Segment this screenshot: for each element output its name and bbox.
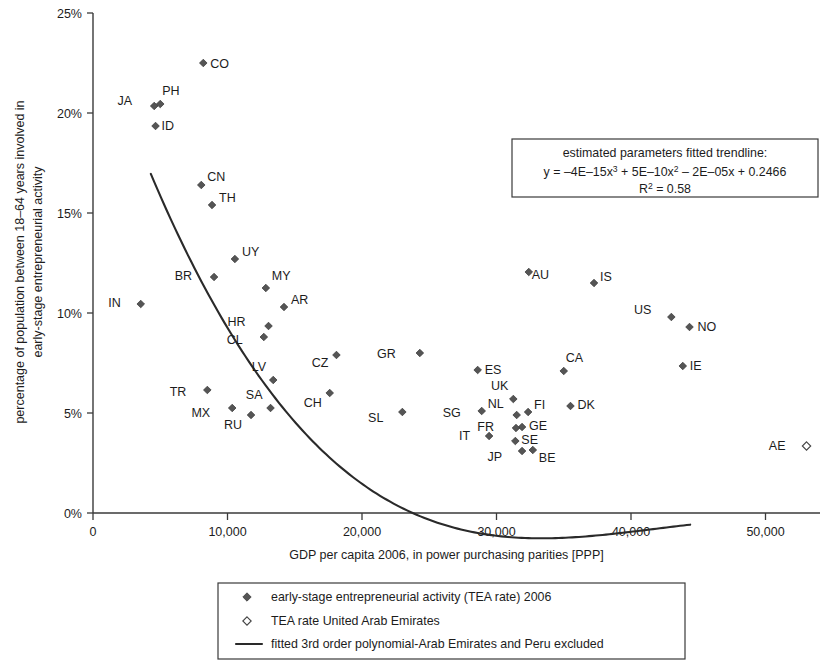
point-label-se: SE [521,433,538,447]
data-point-co [199,59,207,67]
x-tick-label: 10,000 [208,525,246,539]
data-point-gr [416,349,424,357]
x-tick-label: 50,000 [746,525,784,539]
point-label-co: CO [210,57,229,71]
legend-marker-open-diamond [243,617,251,625]
legend-marker-filled-diamond [243,593,251,601]
point-label-uk: UK [491,379,509,393]
point-label-fr: FR [477,420,494,434]
data-point-fi [524,408,532,416]
x-tick-label: 20,000 [343,525,381,539]
data-point-ru [247,411,255,419]
data-point-es [474,366,482,374]
point-label-it: IT [459,429,470,443]
data-point-ae [802,442,810,450]
data-point-hr [265,322,273,330]
point-label-br: BR [175,269,192,283]
point-label-sl: SL [368,411,383,425]
data-point-cl [260,333,268,341]
point-label-hr: HR [227,315,245,329]
point-label-ae: AE [769,439,786,453]
y-axis-title-line1: percentage of population between 18–64 y… [13,100,27,423]
equation-annotation-box: estimated parameters fitted trendline:y … [512,139,818,197]
y-axis-title-line2: early-stage entrepreneurial activity [31,166,45,358]
data-point-no [686,323,694,331]
data-point-sg [478,407,486,415]
legend-label-3: fitted 3rd order polynomial-Arab Emirate… [271,637,604,651]
data-point-in [137,300,145,308]
data-point-jp [518,447,526,455]
data-point-nl [513,411,521,419]
point-label-sg: SG [443,406,461,420]
scatter-plot: 0%5%10%15%20%25% 010,00020,00030,00040,0… [0,0,823,664]
data-point-cn [197,181,205,189]
point-label-tr: TR [170,385,187,399]
point-label-ph: PH [162,84,179,98]
axis-titles: GDP per capita 2006, in power purchasing… [13,100,604,562]
data-point-ie [679,362,687,370]
x-tick-label: 0 [90,525,97,539]
x-axis-title: GDP per capita 2006, in power purchasing… [289,548,604,562]
point-label-nl: NL [488,397,504,411]
point-label-ge: GE [529,419,547,433]
point-label-gr: GR [377,347,396,361]
equation-title: estimated parameters fitted trendline: [563,146,768,160]
point-label-be: BE [539,451,556,465]
data-point-ca [560,367,568,375]
point-label-ch: CH [304,396,322,410]
point-label-ja: JA [118,94,133,108]
y-tick-label: 0% [64,507,82,521]
data-point-is [590,279,598,287]
r-squared-value: R2 = 0.58 [639,181,691,196]
data-point-us [668,313,676,321]
point-label-ca: CA [566,351,584,365]
legend-label-2: TEA rate United Arab Emirates [271,614,440,628]
legend-box: early-stage entrepreneurial activity (TE… [218,583,685,659]
point-label-my: MY [272,269,291,283]
y-tick-label: 5% [64,407,82,421]
data-point-sa [267,404,275,412]
point-label-us: US [634,303,651,317]
point-label-cl: CL [227,333,243,347]
point-label-th: TH [219,191,236,205]
point-label-au: AU [532,268,549,282]
point-label-lv: LV [252,360,267,374]
data-point-br [210,273,218,281]
data-point-uy [231,255,239,263]
point-label-in: IN [108,296,121,310]
point-label-ar: AR [291,293,308,307]
y-tick-label: 10% [57,307,82,321]
point-label-dk: DK [577,398,595,412]
point-label-id: ID [162,119,175,133]
data-point-fr [512,424,520,432]
point-label-uy: UY [242,245,260,259]
data-point-ch [326,389,334,397]
y-tick-label: 20% [57,107,82,121]
data-point-dk [567,402,575,410]
point-label-cn: CN [207,170,225,184]
data-points-group [137,59,811,455]
data-point-sl [399,408,407,416]
data-point-ge [518,423,526,431]
chart-container: 0%5%10%15%20%25% 010,00020,00030,00040,0… [0,0,823,664]
point-label-ru: RU [224,418,242,432]
point-label-is: IS [600,270,612,284]
data-point-mx [228,404,236,412]
data-point-se [512,437,520,445]
point-label-fi: FI [534,398,545,412]
data-point-th [208,201,216,209]
data-point-uk [510,395,518,403]
data-point-lv [269,376,277,384]
point-label-ie: IE [690,359,702,373]
data-point-cz [333,351,341,359]
point-label-sa: SA [246,388,263,402]
y-tick-label: 25% [57,7,82,21]
data-point-labels: COJAPHIDCNTHUYBRMYARINHRCLLVCZGRESCAAUIS… [108,57,785,465]
y-tick-label: 15% [57,207,82,221]
axes-group [93,13,820,513]
point-label-es: ES [485,363,502,377]
point-label-jp: JP [487,450,502,464]
data-point-tr [204,386,212,394]
data-point-ar [280,303,288,311]
data-point-be [529,446,537,454]
